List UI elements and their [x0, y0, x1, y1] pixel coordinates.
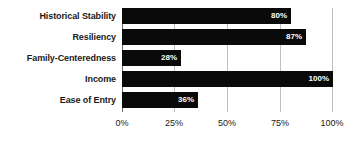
- bar-income[interactable]: 100%: [122, 71, 333, 87]
- bar-row: 87%: [122, 29, 333, 45]
- x-tick-label-75: 75%: [271, 116, 289, 130]
- plot-area: 80% 87% 28% 100% 36%: [122, 8, 333, 112]
- category-axis-labels: Historical Stability Resiliency Family-C…: [0, 8, 116, 112]
- bar-row: 28%: [122, 50, 333, 66]
- bar-row: 36%: [122, 92, 333, 108]
- bar-value-resiliency: 87%: [286, 29, 302, 45]
- category-label-income: Income: [0, 71, 116, 87]
- bar-ease-of-entry[interactable]: 36%: [122, 92, 198, 108]
- bar-resiliency[interactable]: 87%: [122, 29, 306, 45]
- bars: 80% 87% 28% 100% 36%: [122, 8, 333, 112]
- x-axis-tick-labels: 0% 25% 50% 75% 100%: [122, 116, 333, 132]
- bar-value-family-centeredness: 28%: [161, 50, 177, 66]
- bar-value-historical-stability: 80%: [271, 8, 287, 24]
- x-tick-label-50: 50%: [218, 116, 236, 130]
- bar-family-centeredness[interactable]: 28%: [122, 50, 181, 66]
- bar-value-ease-of-entry: 36%: [178, 92, 194, 108]
- x-tick-label-100: 100%: [320, 116, 343, 130]
- x-tick-label-25: 25%: [165, 116, 183, 130]
- category-label-ease-of-entry: Ease of Entry: [0, 92, 116, 108]
- category-label-family-centeredness: Family-Centeredness: [0, 50, 116, 66]
- bar-row: 80%: [122, 8, 333, 24]
- category-label-resiliency: Resiliency: [0, 29, 116, 45]
- bar-chart: Historical Stability Resiliency Family-C…: [0, 0, 359, 142]
- x-tick-label-0: 0%: [115, 116, 128, 130]
- bar-value-income: 100%: [309, 71, 329, 87]
- bar-historical-stability[interactable]: 80%: [122, 8, 291, 24]
- category-label-historical-stability: Historical Stability: [0, 8, 116, 24]
- bar-row: 100%: [122, 71, 333, 87]
